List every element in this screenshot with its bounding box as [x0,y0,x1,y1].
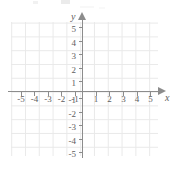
x-tick-mark [109,92,110,95]
y-tick-label: -4 [64,137,76,146]
y-tick-label: 2 [64,66,76,75]
x-tick-label: 2 [103,95,117,104]
y-axis-line [82,18,83,158]
x-tick-label: -3 [41,95,55,104]
x-tick-mark [137,92,138,95]
y-tick-mark [79,54,82,55]
y-tick-mark [79,152,82,153]
y-tick-label: 4 [64,39,76,48]
y-tick-label: 3 [64,52,76,61]
x-tick-label: 1 [89,95,103,104]
x-tick-mark [75,92,76,95]
scan-artifact [61,0,70,4]
scan-artifact [99,7,105,9]
scan-artifact [80,6,94,8]
coordinate-plane-figure: y x -5 -4 -3 -2 -1 1 2 3 4 5 5 4 3 2 1 -… [0,0,177,169]
y-tick-mark [79,27,82,28]
y-tick-label: -2 [64,110,76,119]
y-tick-mark [79,125,82,126]
y-tick-mark [79,139,82,140]
x-tick-mark [150,92,151,95]
x-tick-mark [96,92,97,95]
x-tick-label: -5 [14,95,28,104]
y-tick-mark [79,81,82,82]
x-tick-mark [123,92,124,95]
y-axis-label: y [71,11,75,22]
y-tick-label: 1 [64,79,76,88]
y-tick-mark [79,98,82,99]
x-tick-mark [34,92,35,95]
y-tick-label: -3 [64,123,76,132]
x-tick-mark [48,92,49,95]
y-axis-arrow-icon [78,12,86,20]
x-tick-mark [21,92,22,95]
x-tick-mark [61,92,62,95]
x-tick-label: 5 [144,95,158,104]
y-tick-label: -5 [64,150,76,159]
scan-artifact [33,1,38,4]
y-tick-mark [79,41,82,42]
y-tick-mark [79,68,82,69]
chart-gridlines [11,22,158,156]
x-tick-label: 3 [117,95,131,104]
y-tick-label: 5 [64,25,76,34]
x-axis-label: x [165,92,169,103]
x-tick-label: 4 [130,95,144,104]
y-tick-mark [79,112,82,113]
y-tick-label: -1 [64,96,76,105]
x-tick-label: -4 [28,95,42,104]
